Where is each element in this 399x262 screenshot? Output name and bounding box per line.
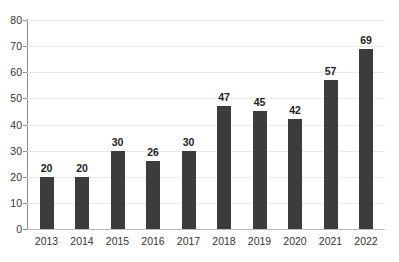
x-tick-label: 2021	[313, 236, 349, 247]
x-tick-label: 2016	[135, 236, 171, 247]
bar-value-label: 42	[279, 105, 311, 116]
bar	[253, 111, 267, 229]
y-tick-label: 60	[1, 67, 22, 78]
bar-value-label: 26	[137, 147, 169, 158]
bar	[182, 151, 196, 229]
bar	[111, 151, 125, 229]
bar	[146, 161, 160, 229]
x-tick-label: 2017	[171, 236, 207, 247]
gridline	[27, 20, 385, 21]
bar	[40, 177, 54, 229]
y-tick-label: 0	[1, 224, 22, 235]
gridline	[27, 46, 385, 47]
bar-value-label: 30	[173, 137, 205, 148]
x-tick-label: 2020	[277, 236, 313, 247]
y-tick-label: 10	[1, 198, 22, 209]
y-tick-label: 70	[1, 41, 22, 52]
y-tick-label: 80	[1, 15, 22, 26]
bar	[75, 177, 89, 229]
plot-area	[27, 20, 385, 229]
x-tick-label: 2014	[64, 236, 100, 247]
bar	[217, 106, 231, 229]
bar-value-label: 69	[350, 35, 382, 46]
y-tick-label: 50	[1, 93, 22, 104]
x-tick-label: 2019	[242, 236, 278, 247]
x-tick-label: 2022	[348, 236, 384, 247]
x-tick-label: 2015	[100, 236, 136, 247]
bar	[324, 80, 338, 229]
y-tick-label: 40	[1, 120, 22, 131]
bar-value-label: 30	[102, 137, 134, 148]
bar-value-label: 45	[244, 97, 276, 108]
y-tick-label: 30	[1, 146, 22, 157]
y-axis-labels: 80 70 60 50 40 30 20 10 0	[0, 0, 22, 262]
bar-value-label: 57	[315, 66, 347, 77]
bar-value-label: 20	[31, 163, 63, 174]
bar-value-label: 47	[208, 92, 240, 103]
x-tick-label: 2013	[29, 236, 65, 247]
bar-chart: 80 70 60 50 40 30 20 10 0	[0, 0, 399, 262]
bar	[359, 49, 373, 229]
bar	[288, 119, 302, 229]
bar-value-label: 20	[66, 163, 98, 174]
x-axis-line	[27, 229, 385, 230]
x-tick-label: 2018	[206, 236, 242, 247]
y-tick-label: 20	[1, 172, 22, 183]
